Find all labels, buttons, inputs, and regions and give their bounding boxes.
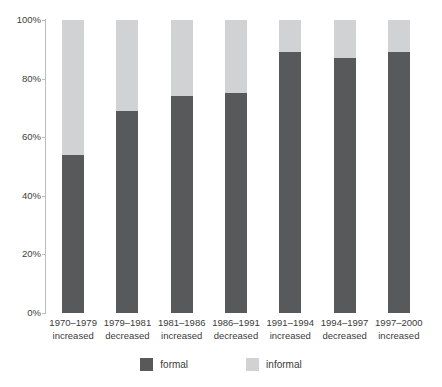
bar-segment-informal[interactable] bbox=[279, 20, 301, 52]
x-axis-label-direction: increased bbox=[155, 329, 209, 342]
x-axis-label-period: 1986–1991 bbox=[212, 317, 260, 328]
x-axis-label: 1991–1994increased bbox=[263, 316, 317, 342]
plot-area bbox=[46, 20, 426, 313]
bar-group[interactable] bbox=[171, 20, 193, 313]
x-axis-label: 1981–1986increased bbox=[155, 316, 209, 342]
x-axis-label-period: 1997–2000 bbox=[375, 317, 423, 328]
bar-group[interactable] bbox=[388, 20, 410, 313]
x-axis-label-direction: decreased bbox=[100, 329, 154, 342]
x-axis-label: 1997–2000increased bbox=[372, 316, 426, 342]
y-axis-tick-mark bbox=[42, 79, 45, 80]
legend-swatch-formal bbox=[140, 358, 153, 371]
bar-segment-informal[interactable] bbox=[388, 20, 410, 52]
legend-item-informal[interactable]: informal bbox=[246, 358, 302, 371]
chart-legend: formalinformal bbox=[0, 358, 442, 371]
legend-label-informal: informal bbox=[266, 359, 302, 371]
y-axis-tick-mark bbox=[42, 137, 45, 138]
x-axis-label-period: 1970–1979 bbox=[49, 317, 97, 328]
bar-segment-formal[interactable] bbox=[279, 52, 301, 313]
legend-item-formal[interactable]: formal bbox=[140, 358, 188, 371]
bar-segment-formal[interactable] bbox=[171, 96, 193, 313]
x-axis-label-direction: decreased bbox=[317, 329, 371, 342]
y-axis-tick-80pct: 80% bbox=[0, 74, 41, 84]
x-axis-label-direction: increased bbox=[46, 329, 100, 342]
bar-group[interactable] bbox=[62, 20, 84, 313]
y-axis-tick-mark bbox=[42, 196, 45, 197]
y-axis-tick-40pct: 40% bbox=[0, 191, 41, 201]
bar-segment-informal[interactable] bbox=[171, 20, 193, 96]
bar-segment-formal[interactable] bbox=[62, 155, 84, 313]
x-axis-label-period: 1991–1994 bbox=[267, 317, 315, 328]
y-axis-tick-mark bbox=[42, 20, 45, 21]
x-axis-label: 1979–1981decreased bbox=[100, 316, 154, 342]
bar-group[interactable] bbox=[116, 20, 138, 313]
x-axis-label-period: 1994–1997 bbox=[321, 317, 369, 328]
x-axis-label-direction: decreased bbox=[209, 329, 263, 342]
bar-group[interactable] bbox=[225, 20, 247, 313]
bar-segment-formal[interactable] bbox=[388, 52, 410, 313]
x-axis-label-direction: increased bbox=[263, 329, 317, 342]
bar-segment-formal[interactable] bbox=[116, 111, 138, 313]
bar-segment-informal[interactable] bbox=[225, 20, 247, 93]
y-axis-tick-60pct: 60% bbox=[0, 132, 41, 142]
y-axis-tick-mark bbox=[42, 254, 45, 255]
legend-swatch-informal bbox=[246, 358, 259, 371]
stacked-bar-chart: 0%20%40%60%80%100% 1970–1979increased197… bbox=[0, 0, 442, 387]
y-axis-tick-20pct: 20% bbox=[0, 249, 41, 259]
bar-group[interactable] bbox=[279, 20, 301, 313]
x-axis-label: 1986–1991decreased bbox=[209, 316, 263, 342]
bar-segment-informal[interactable] bbox=[62, 20, 84, 155]
y-axis-tick-mark bbox=[42, 313, 45, 314]
x-axis-label-direction: increased bbox=[372, 329, 426, 342]
x-axis-label: 1994–1997decreased bbox=[317, 316, 371, 342]
x-axis-label-period: 1979–1981 bbox=[104, 317, 152, 328]
x-axis-label-period: 1981–1986 bbox=[158, 317, 206, 328]
x-axis-label: 1970–1979increased bbox=[46, 316, 100, 342]
bar-segment-informal[interactable] bbox=[116, 20, 138, 111]
bar-segment-formal[interactable] bbox=[334, 58, 356, 313]
bar-segment-informal[interactable] bbox=[334, 20, 356, 58]
y-axis-tick-0pct: 0% bbox=[0, 308, 41, 318]
x-axis-tick-labels: 1970–1979increased1979–1981decreased1981… bbox=[46, 316, 426, 350]
bar-group[interactable] bbox=[334, 20, 356, 313]
bar-segment-formal[interactable] bbox=[225, 93, 247, 313]
y-axis-tick-100pct: 100% bbox=[0, 15, 41, 25]
legend-label-formal: formal bbox=[160, 359, 188, 371]
